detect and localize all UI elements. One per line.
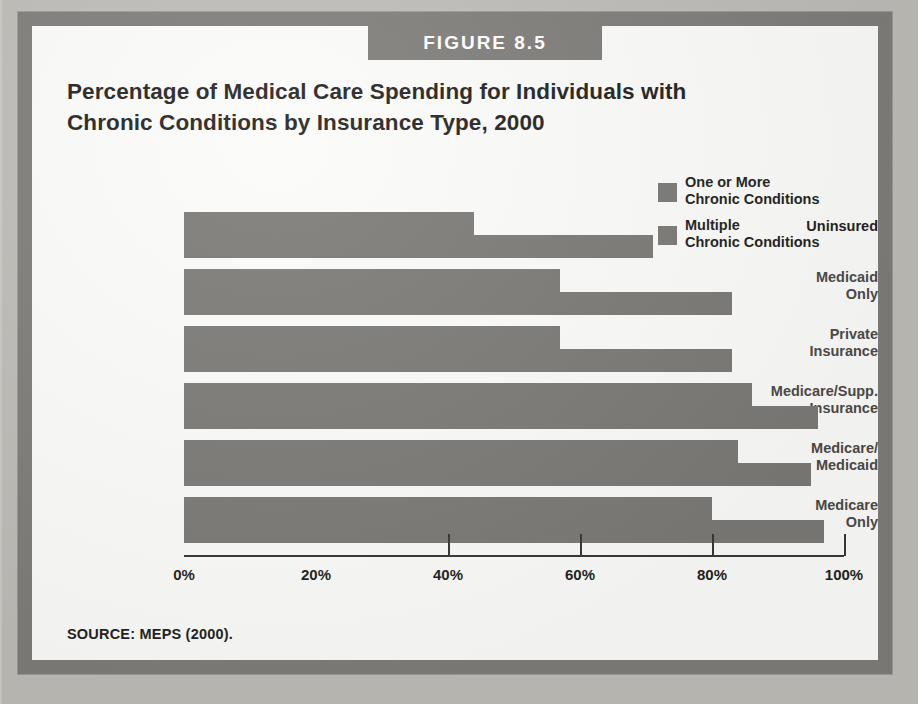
bar <box>184 520 824 543</box>
bar <box>184 292 732 315</box>
category-label-private-insurance: Private Insurance <box>718 326 878 359</box>
category-label-medicaid-only: Medicaid Only <box>718 269 878 302</box>
x-axis-tick-label: 100% <box>825 566 863 583</box>
bar <box>184 463 811 486</box>
x-axis-tick-label: 20% <box>301 566 331 583</box>
figure-panel: FIGURE 8.5 Percentage of Medical Care Sp… <box>32 26 878 660</box>
x-axis-tick <box>712 534 714 556</box>
x-axis-tick <box>844 534 846 556</box>
bar <box>184 406 818 429</box>
category-label-uninsured: Uninsured <box>718 218 878 235</box>
scanned-page: FIGURE 8.5 Percentage of Medical Care Sp… <box>0 0 918 704</box>
x-axis-line <box>184 555 844 557</box>
bar <box>184 269 560 292</box>
x-axis-tick-label: 60% <box>565 566 595 583</box>
x-axis-tick-label: 40% <box>433 566 463 583</box>
x-axis-tick-label: 80% <box>697 566 727 583</box>
x-axis-tick-label: 0% <box>173 566 195 583</box>
x-axis-tick <box>580 534 582 556</box>
bar <box>184 235 653 258</box>
bar <box>184 440 738 463</box>
bar <box>184 349 732 372</box>
source-note: SOURCE: MEPS (2000). <box>67 626 233 642</box>
bar <box>184 497 712 520</box>
x-axis-tick <box>448 534 450 556</box>
bar-chart-plot: Uninsured Medicaid Only Private Insuranc… <box>32 26 878 660</box>
figure-frame: FIGURE 8.5 Percentage of Medical Care Sp… <box>18 12 892 674</box>
bar <box>184 383 752 406</box>
bar <box>184 212 474 235</box>
bar <box>184 326 560 349</box>
